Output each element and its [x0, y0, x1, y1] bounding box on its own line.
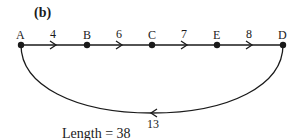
edge-curve-d-a [21, 45, 283, 113]
edge-weight-c-e: 7 [181, 27, 187, 41]
node-label-e: E [213, 28, 220, 42]
cycle-diagram: (b) A B C E D 4 6 7 8 13 Length = 38 [0, 0, 298, 140]
node-b [84, 42, 90, 48]
node-e [214, 42, 220, 48]
node-c [149, 42, 155, 48]
edge-weight-a-b: 4 [50, 27, 56, 41]
node-a [18, 42, 24, 48]
node-d [280, 42, 286, 48]
edge-weight-e-d: 8 [246, 27, 252, 41]
node-label-b: B [83, 28, 91, 42]
edge-weight-d-a: 13 [147, 117, 159, 131]
node-label-a: A [16, 28, 25, 42]
node-label-d: D [278, 28, 287, 42]
node-label-c: C [148, 28, 156, 42]
edge-weight-b-c: 6 [116, 27, 122, 41]
panel-label: (b) [34, 5, 51, 21]
length-caption: Length = 38 [62, 126, 131, 140]
